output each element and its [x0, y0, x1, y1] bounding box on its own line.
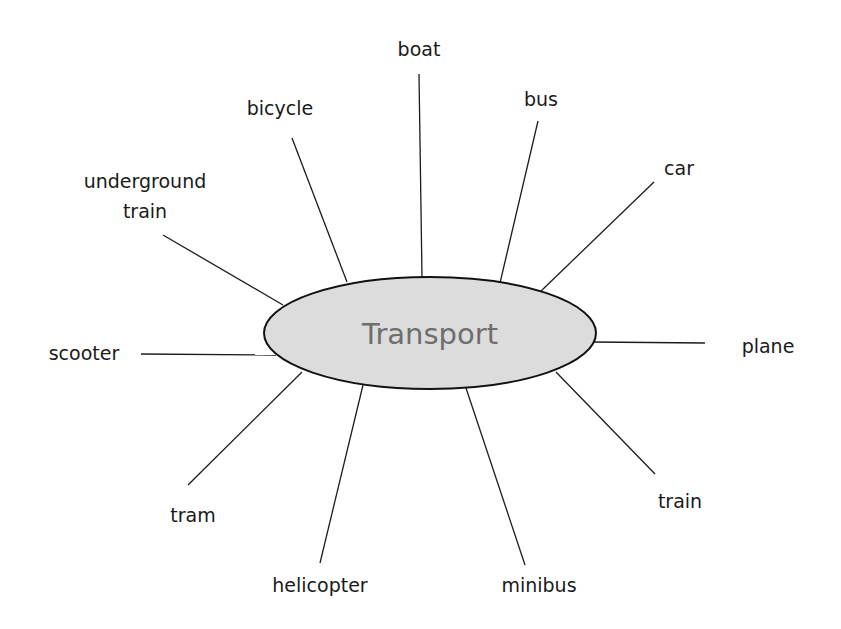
spoke-bus — [500, 121, 538, 283]
transport-mind-map: Transport boat bus car plane train minib… — [0, 0, 841, 629]
spoke-car — [540, 182, 654, 292]
spoke-boat — [419, 74, 422, 277]
branch-label-car: car — [664, 157, 694, 179]
spoke-plane — [593, 342, 705, 343]
spoke-underground-train — [163, 235, 283, 305]
branch-label-tram: tram — [170, 504, 215, 526]
branch-label-scooter: scooter — [49, 342, 120, 364]
branch-label-bus: bus — [524, 88, 558, 110]
branch-label-boat: boat — [398, 38, 441, 60]
branch-label-underground-line2: train — [123, 200, 167, 222]
branch-label-bicycle: bicycle — [247, 97, 313, 119]
center-label: Transport — [361, 317, 498, 351]
branch-label-helicopter: helicopter — [272, 574, 368, 596]
spoke-scooter — [141, 354, 276, 355]
spoke-train — [556, 372, 655, 474]
branch-label-train: train — [658, 490, 702, 512]
branch-label-minibus: minibus — [501, 574, 576, 596]
spoke-helicopter — [320, 385, 363, 563]
spoke-minibus — [466, 388, 525, 565]
spoke-bicycle — [292, 138, 347, 282]
branch-label-plane: plane — [742, 335, 795, 357]
branch-label-underground: underground — [84, 170, 207, 192]
spoke-tram — [188, 372, 302, 485]
